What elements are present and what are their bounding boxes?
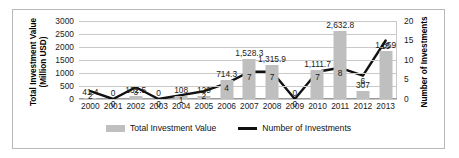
- category-slot: 00: [147, 21, 170, 99]
- category-slot: 3076: [352, 21, 375, 99]
- x-axis-tick-label: 2009: [285, 101, 304, 111]
- legend-bar-swatch-icon: [106, 125, 125, 132]
- line-point-label: 2: [202, 92, 207, 101]
- bar-value-label: 0: [156, 89, 161, 98]
- y-axis-right-tick-label: 0: [404, 95, 409, 104]
- chart-figure: Total Investment Value (Million USD) Num…: [12, 9, 445, 149]
- y-axis-left-title-line1: Total Investment Value: [29, 18, 39, 106]
- x-axis-tick-label: 2012: [354, 101, 373, 111]
- y-axis-left-tick-label: 3000: [55, 17, 74, 26]
- x-axis-tick-label: 2003: [149, 101, 168, 111]
- line-point-label: 15: [381, 42, 390, 51]
- x-axis-tick-label: 2007: [240, 101, 259, 111]
- category-slot: 2,632.88: [329, 21, 352, 99]
- x-axis-tick-label: 2011: [331, 101, 349, 111]
- category-slot: 714.34: [215, 21, 238, 99]
- bar-value-label: 1,111.7: [304, 60, 331, 69]
- category-slot: 1,111.77: [306, 21, 329, 99]
- category-slot: 00: [102, 21, 125, 99]
- x-axis-tick-label: 2005: [195, 101, 214, 111]
- bar-value-label: 714.3: [216, 70, 237, 79]
- bar-value-label: 2,632.8: [326, 21, 354, 30]
- legend-item[interactable]: Total Investment Value: [106, 123, 216, 133]
- line-point-label: 7: [247, 73, 252, 82]
- x-axis-tick-label: 2000: [81, 101, 100, 111]
- y-axis-right-tick-label: 15: [404, 36, 413, 45]
- y-axis-left-tick-label: 1000: [55, 69, 74, 78]
- y-axis-right-tick-label: 20: [404, 17, 413, 26]
- line-point-label: 7: [270, 73, 275, 82]
- x-axis-ticks: 2000200120022003200420052006200720082009…: [79, 101, 397, 113]
- bar: [266, 65, 279, 99]
- category-slot: 41.42: [79, 21, 102, 99]
- category-slot: 1292: [193, 21, 216, 99]
- x-axis-tick-label: 2010: [308, 101, 327, 111]
- bar: [334, 31, 347, 99]
- y-axis-left-tick-label: 500: [60, 82, 74, 91]
- y-axis-left-tick-label: 2000: [55, 43, 74, 52]
- category-slot: 1,315.97: [261, 21, 284, 99]
- x-axis-tick-label: 2001: [104, 101, 123, 111]
- line-point-label: 7: [315, 73, 320, 82]
- line-point-label: 4: [224, 84, 229, 93]
- legend-label: Number of Investments: [262, 123, 351, 133]
- x-axis-tick-label: 2006: [217, 101, 236, 111]
- bar-value-label: 108: [174, 86, 188, 95]
- y-axis-left-tick-label: 2500: [55, 30, 74, 39]
- legend-item[interactable]: Number of Investments: [238, 123, 351, 133]
- legend-line-swatch-icon: [238, 127, 257, 130]
- bar-value-label: 0: [292, 89, 297, 98]
- y-axis-right-tick-label: 10: [404, 56, 413, 65]
- plot-area: 41.4200132.530010811292714.341,528.371,3…: [79, 21, 397, 99]
- category-slot: 132.53: [124, 21, 147, 99]
- x-axis-tick-label: 2013: [376, 101, 395, 111]
- category-slot: 00: [283, 21, 306, 99]
- line-point-label: 3: [133, 88, 138, 97]
- bar-value-label: 1,315.9: [258, 55, 286, 64]
- line-point-label: 8: [338, 69, 343, 78]
- y-axis-left-title: Total Investment Value (Million USD): [0, 10, 91, 114]
- bar: [356, 91, 369, 99]
- y-axis-left-tick-label: 1500: [55, 56, 74, 65]
- bar: [379, 51, 392, 99]
- line-point-label: 6: [361, 77, 366, 86]
- x-axis-tick-label: 2008: [263, 101, 282, 111]
- x-axis-tick-label: 2004: [172, 101, 191, 111]
- line-point-label: 2: [88, 92, 93, 101]
- y-axis-right-tick-label: 5: [404, 75, 409, 84]
- chart-legend: Total Investment ValueNumber of Investme…: [13, 123, 444, 133]
- bar-value-label: 0: [111, 89, 116, 98]
- category-slot: 1081: [170, 21, 193, 99]
- x-axis-tick-label: 2002: [126, 101, 145, 111]
- y-axis-left-tick-label: 0: [69, 95, 74, 104]
- category-slot: 1,85915: [374, 21, 397, 99]
- legend-label: Total Investment Value: [130, 123, 216, 133]
